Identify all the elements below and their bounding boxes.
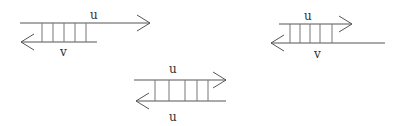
strand-diagram-canvas: u v u v u u bbox=[0, 0, 404, 126]
top-label: u bbox=[169, 62, 177, 76]
diagram-middle: u u bbox=[134, 62, 226, 124]
top-label: u bbox=[304, 9, 312, 23]
bottom-label: v bbox=[313, 47, 321, 61]
bottom-label: u bbox=[169, 110, 177, 124]
diagram-left: u v bbox=[20, 8, 150, 59]
top-label: u bbox=[90, 8, 98, 22]
bottom-label: v bbox=[59, 45, 67, 59]
diagram-right: u v bbox=[271, 9, 385, 61]
